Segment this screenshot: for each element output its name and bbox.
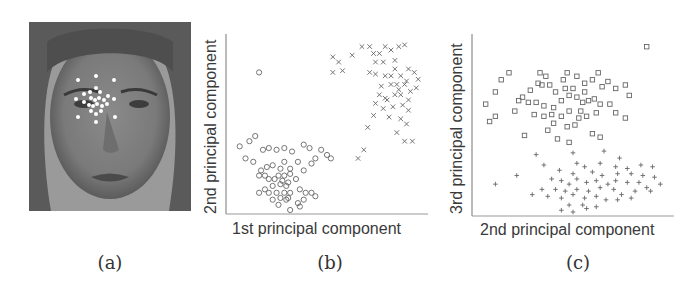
- x-axis-label-c: 2nd principal component: [480, 221, 654, 239]
- data-point-square: [551, 105, 555, 109]
- data-point-circle: [301, 142, 306, 147]
- data-point-square: [538, 71, 542, 75]
- data-point-circle: [303, 190, 308, 195]
- data-point-circle: [319, 147, 324, 152]
- data-point-circle: [272, 176, 277, 181]
- data-point-circle: [257, 190, 262, 195]
- y-axis-label-b: 2nd principal component: [202, 40, 220, 214]
- data-point-square: [526, 100, 530, 104]
- data-point-square: [623, 83, 627, 87]
- data-point-square: [532, 112, 536, 116]
- data-point-square: [522, 133, 526, 137]
- data-point-square: [553, 90, 557, 94]
- caption-c: (c): [548, 252, 608, 273]
- caption-b: (b): [300, 252, 360, 273]
- scatter-plot-c: [446, 0, 696, 250]
- data-point-square: [606, 79, 610, 83]
- data-point-square: [534, 100, 538, 104]
- data-point-square: [594, 111, 598, 115]
- series-cluster-x: [331, 43, 421, 161]
- data-point-square: [567, 140, 571, 144]
- data-point-circle: [266, 190, 271, 195]
- data-point-square: [544, 74, 548, 78]
- data-point-square: [575, 74, 579, 78]
- y-axis-label-c: 3rd principal component: [448, 43, 466, 214]
- data-point-circle: [270, 197, 275, 202]
- data-point-circle: [274, 147, 279, 152]
- data-point-square: [499, 78, 503, 82]
- data-point-circle: [258, 168, 263, 173]
- data-point-square: [563, 86, 567, 90]
- data-point-circle: [309, 161, 314, 166]
- data-point-square: [598, 135, 602, 139]
- data-point-square: [596, 71, 600, 75]
- data-point-square: [582, 90, 586, 94]
- data-point-circle: [301, 168, 306, 173]
- panel-a: [29, 22, 191, 211]
- data-point-circle: [288, 166, 293, 171]
- data-point-circle: [243, 156, 248, 161]
- data-point-circle: [266, 145, 271, 150]
- data-point-square: [581, 100, 585, 104]
- series-cluster-plus: [493, 149, 662, 215]
- data-point-circle: [247, 139, 252, 144]
- caption-a: (a): [80, 252, 140, 273]
- data-point-square: [513, 109, 517, 113]
- data-point-circle: [270, 183, 275, 188]
- series-cluster-square: [484, 45, 649, 145]
- data-point-circle: [282, 173, 287, 178]
- face-photo: [29, 22, 191, 211]
- data-point-square: [507, 71, 511, 75]
- scatter-plot-b: [200, 0, 440, 250]
- data-point-square: [565, 125, 569, 129]
- data-point-square: [590, 132, 594, 136]
- panel-b: 2nd principal component 1st principal co…: [200, 0, 440, 250]
- data-point-square: [582, 81, 586, 85]
- data-point-square: [584, 114, 588, 118]
- data-point-square: [546, 128, 550, 132]
- data-point-square: [608, 102, 612, 106]
- data-point-square: [559, 98, 563, 102]
- data-point-square: [565, 71, 569, 75]
- data-point-circle: [293, 176, 298, 181]
- data-point-circle: [289, 149, 294, 154]
- data-point-square: [548, 83, 552, 87]
- data-point-square: [600, 85, 604, 89]
- data-point-square: [598, 102, 602, 106]
- data-point-circle: [282, 190, 287, 195]
- data-point-square: [555, 137, 559, 141]
- data-point-circle: [260, 147, 265, 152]
- data-point-square: [542, 104, 546, 108]
- data-point-square: [579, 109, 583, 113]
- data-point-square: [590, 78, 594, 82]
- data-point-square: [559, 114, 563, 118]
- data-point-circle: [313, 194, 318, 199]
- data-point-circle: [253, 133, 258, 138]
- data-point-square: [493, 114, 497, 118]
- data-point-circle: [288, 171, 293, 176]
- data-point-square: [484, 102, 488, 106]
- data-point-circle: [276, 202, 281, 207]
- data-point-square: [567, 109, 571, 113]
- data-point-square: [613, 111, 617, 115]
- data-point-square: [571, 86, 575, 90]
- data-point-circle: [251, 159, 256, 164]
- data-point-square: [549, 112, 553, 116]
- data-point-square: [567, 93, 571, 97]
- data-point-square: [551, 121, 555, 125]
- data-point-square: [493, 90, 497, 94]
- data-point-square: [586, 98, 590, 102]
- panel-c: 3rd principal component 2nd principal co…: [446, 0, 696, 250]
- data-point-circle: [307, 145, 312, 150]
- data-point-circle: [328, 156, 333, 161]
- data-point-square: [561, 78, 565, 82]
- data-point-square: [613, 86, 617, 90]
- data-point-square: [577, 116, 581, 120]
- data-point-circle: [257, 173, 262, 178]
- data-point-circle: [282, 145, 287, 150]
- data-point-square: [627, 93, 631, 97]
- data-point-square: [487, 119, 491, 123]
- data-point-circle: [278, 195, 283, 200]
- data-point-square: [645, 45, 649, 49]
- data-point-circle: [270, 163, 275, 168]
